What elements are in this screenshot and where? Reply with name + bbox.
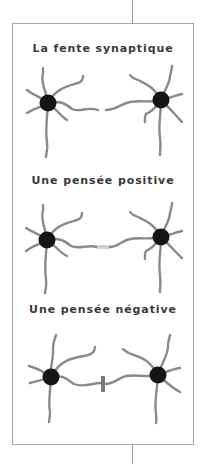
neuron-left-panel-2 <box>26 205 97 293</box>
soma-icon <box>43 369 60 386</box>
neuron-left-panel-3 <box>29 335 101 422</box>
soma-icon <box>150 367 167 384</box>
neuron-right-panel-1 <box>106 66 182 155</box>
neuron-right-panel-2 <box>110 203 182 292</box>
neuron-illustrations <box>0 0 201 464</box>
soma-icon <box>153 92 170 109</box>
neuron-right-panel-3 <box>105 335 180 423</box>
soma-icon <box>39 232 56 249</box>
soma-icon <box>153 229 170 246</box>
soma-icon <box>40 95 57 112</box>
neuron-left-panel-1 <box>27 68 98 157</box>
